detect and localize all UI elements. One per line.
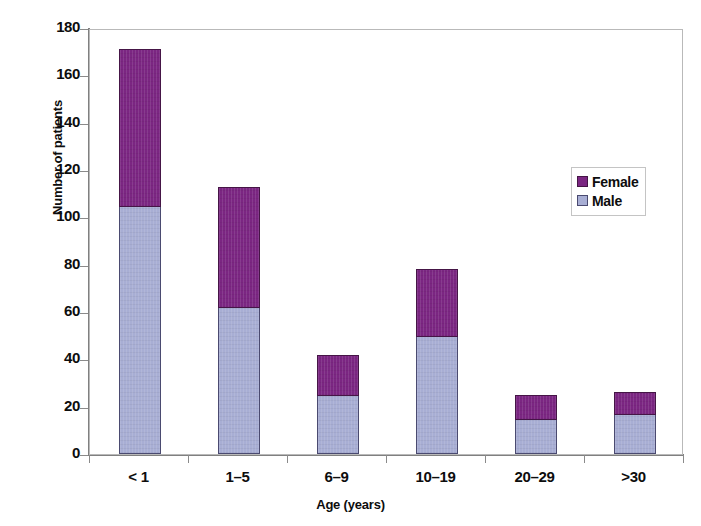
y-axis-tick-label: 80: [34, 259, 80, 269]
bar-segment-male: [218, 307, 260, 454]
bar-segment-male: [515, 419, 557, 455]
y-axis-tick-label: 120: [34, 164, 80, 174]
bar-group: [317, 28, 359, 454]
x-axis-tick-label: >30: [584, 468, 683, 485]
x-axis-tick: [584, 455, 585, 463]
y-axis-tick: [80, 29, 88, 30]
bar-segment-male: [416, 336, 458, 454]
stacked-bar-chart-figure: Number of patients 180160140120100806040…: [0, 0, 701, 526]
chart-legend: Female Male: [571, 167, 646, 216]
legend-item-female: Female: [577, 172, 638, 191]
legend-swatch-male-icon: [577, 195, 588, 206]
x-axis-tick-label: 1–5: [188, 468, 287, 485]
x-axis-tick-label: 6–9: [287, 468, 386, 485]
bar-group: [515, 28, 557, 454]
bar-group: [416, 28, 458, 454]
y-axis-tick: [80, 218, 88, 219]
x-axis-tick-label: 20–29: [485, 468, 584, 485]
y-axis-tick-label: 180: [34, 22, 80, 32]
bar-group: [218, 28, 260, 454]
x-axis-tick-label: 10–19: [386, 468, 485, 485]
y-axis-tick-label: 160: [34, 69, 80, 79]
y-axis-tick: [80, 360, 88, 361]
bar-segment-female: [317, 355, 359, 396]
y-axis-tick: [80, 124, 88, 125]
bar-segment-female: [218, 187, 260, 309]
y-axis-tick: [80, 76, 88, 77]
y-axis-tick-label: 60: [34, 306, 80, 316]
x-axis-tick: [386, 455, 387, 463]
plot-area: Female Male: [89, 29, 683, 455]
bar-segment-female: [515, 395, 557, 420]
y-axis-tick-label: 40: [34, 353, 80, 363]
y-axis-tick-label: 20: [34, 401, 80, 411]
x-axis-title: Age (years): [0, 497, 701, 512]
legend-item-male: Male: [577, 191, 638, 210]
y-axis-tick: [80, 408, 88, 409]
x-axis-tick: [287, 455, 288, 463]
bar-segment-female: [614, 392, 656, 414]
bar-group: [614, 28, 656, 454]
legend-label-male: Male: [592, 193, 622, 209]
y-axis-tick: [80, 313, 88, 314]
bar-segment-male: [317, 395, 359, 454]
x-axis-tick: [188, 455, 189, 463]
x-axis-tick: [485, 455, 486, 463]
bar-segment-male: [614, 414, 656, 454]
y-axis-tick: [80, 266, 88, 267]
bar-segment-female: [119, 49, 161, 206]
y-axis-tick-label: 0: [34, 448, 80, 458]
x-axis-tick: [683, 455, 684, 463]
bar-segment-female: [416, 269, 458, 336]
y-axis-tick: [80, 455, 88, 456]
y-axis-tick: [80, 171, 88, 172]
legend-swatch-female-icon: [577, 176, 588, 187]
x-axis-tick: [89, 455, 90, 463]
y-axis-tick-label: 100: [34, 211, 80, 221]
y-axis-title: Number of patients: [50, 63, 65, 253]
legend-label-female: Female: [592, 174, 638, 190]
bar-group: [119, 28, 161, 454]
y-axis-tick-label: 140: [34, 117, 80, 127]
bar-segment-male: [119, 206, 161, 455]
x-axis-tick-label: < 1: [89, 468, 188, 485]
